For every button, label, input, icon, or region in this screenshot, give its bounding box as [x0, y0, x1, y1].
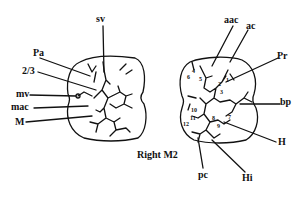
label-bp: bp	[280, 97, 291, 107]
groove-number-4: 4	[192, 68, 195, 74]
groove-number-6: 6	[187, 74, 190, 80]
label-Pa: Pa	[33, 48, 44, 58]
groove-number-3: 3	[220, 89, 223, 95]
groove-number-10: 10	[191, 107, 197, 113]
groove-number-1: 1	[226, 77, 229, 83]
groove-number-5: 5	[199, 76, 202, 82]
label-H: H	[278, 137, 286, 147]
label-mac: mac	[11, 102, 29, 112]
label-Hi: Hi	[242, 173, 253, 183]
groove-number-12: 12	[183, 121, 189, 127]
label-mv: mv	[16, 89, 29, 99]
label-M: M	[15, 117, 24, 127]
left-tooth-outline	[68, 56, 147, 141]
groove-number-7: 7	[228, 114, 231, 120]
groove-number-8: 8	[212, 115, 215, 121]
groove-number-11: 11	[190, 115, 196, 121]
label-2-3: 2/3	[22, 66, 35, 76]
label-pc: pc	[198, 170, 208, 180]
label-sv: sv	[96, 14, 105, 24]
label-ac: ac	[246, 21, 255, 31]
label-Pr: Pr	[277, 51, 288, 61]
figure-caption: Right M2	[137, 149, 178, 160]
label-aac: aac	[224, 15, 238, 25]
left-tooth-grooves	[78, 62, 132, 136]
groove-number-2: 2	[218, 81, 221, 87]
groove-number-9: 9	[217, 123, 220, 129]
